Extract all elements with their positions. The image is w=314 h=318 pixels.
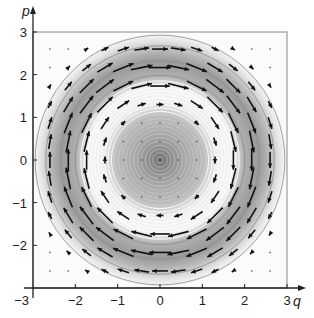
x-tick-label: −1 bbox=[110, 293, 125, 308]
vector-arrow bbox=[196, 159, 198, 161]
vector-arrow bbox=[159, 178, 161, 180]
vector-field-chart: −3−2−10123 −2−10123 q p bbox=[0, 0, 314, 318]
x-axis-arrowhead bbox=[298, 285, 306, 291]
plot-area bbox=[33, 32, 287, 288]
vector-arrow bbox=[141, 122, 143, 124]
vector-arrow bbox=[141, 159, 143, 161]
vector-arrow bbox=[159, 122, 161, 124]
vector-arrow bbox=[141, 178, 143, 180]
x-tick-label: −3 bbox=[14, 293, 29, 308]
vector-arrow bbox=[159, 196, 161, 198]
vector-arrow bbox=[178, 159, 180, 161]
vector-arrow bbox=[159, 141, 161, 143]
y-tick-label: −1 bbox=[12, 196, 27, 211]
vector-arrow bbox=[67, 270, 69, 272]
y-tick-label: 0 bbox=[20, 153, 27, 168]
y-tick-label: −2 bbox=[12, 238, 27, 253]
vector-arrow bbox=[178, 178, 180, 180]
x-tick-label: −2 bbox=[68, 293, 83, 308]
x-tick-label: 2 bbox=[241, 293, 248, 308]
vector-arrow bbox=[196, 178, 198, 180]
vector-arrow bbox=[159, 159, 161, 161]
vector-arrow bbox=[123, 159, 125, 161]
x-axis-label: q bbox=[293, 293, 301, 309]
vector-arrow bbox=[251, 48, 253, 50]
vector-arrow bbox=[49, 48, 51, 50]
vector-arrow bbox=[251, 270, 253, 272]
vector-arrow bbox=[49, 252, 51, 254]
vector-arrow bbox=[269, 252, 271, 254]
x-tick-label: 0 bbox=[156, 293, 163, 308]
vector-arrow bbox=[178, 196, 180, 198]
vector-arrow bbox=[49, 270, 51, 272]
vector-arrow bbox=[123, 178, 125, 180]
y-tick-label: 2 bbox=[20, 68, 27, 83]
y-axis-label: p bbox=[21, 3, 30, 19]
x-tick-label: 1 bbox=[199, 293, 206, 308]
vector-arrow bbox=[269, 67, 271, 69]
vector-arrow bbox=[178, 141, 180, 143]
vector-arrow bbox=[196, 141, 198, 143]
y-tick-label: 1 bbox=[20, 110, 27, 125]
vector-arrow bbox=[141, 141, 143, 143]
vector-arrow bbox=[269, 48, 271, 50]
vector-arrow bbox=[178, 122, 180, 124]
vector-arrow bbox=[269, 270, 271, 272]
vector-arrow bbox=[141, 196, 143, 198]
y-axis-arrowhead bbox=[30, 6, 36, 14]
vector-arrow bbox=[123, 141, 125, 143]
x-tick-label: 3 bbox=[283, 293, 290, 308]
y-tick-label: 3 bbox=[20, 25, 27, 40]
vector-arrow bbox=[67, 48, 69, 50]
vector-arrow bbox=[49, 67, 51, 69]
